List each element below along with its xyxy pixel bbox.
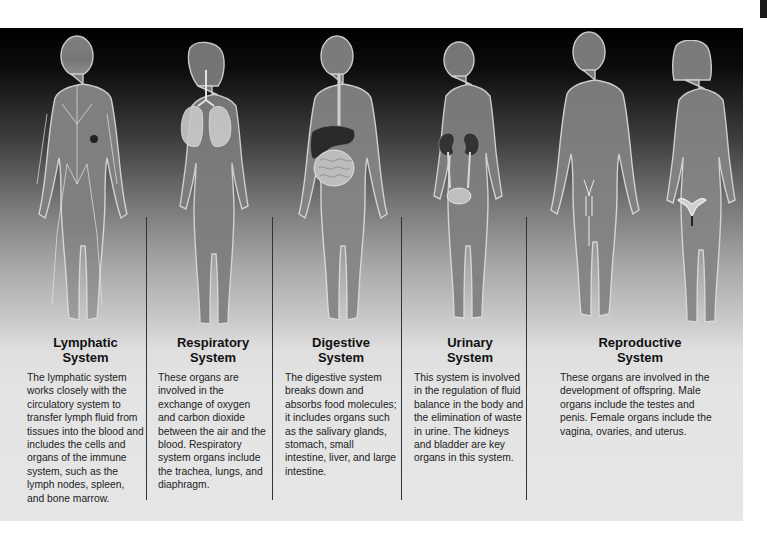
page-corner-mark xyxy=(760,0,767,18)
system-title: Reproductive System xyxy=(560,335,720,365)
column-divider xyxy=(526,217,527,500)
system-title: Respiratory System xyxy=(158,335,268,365)
system-description: This system is involved in the regulatio… xyxy=(414,371,526,465)
system-description: These organs are involved in the develop… xyxy=(560,371,720,438)
system-description: The digestive system breaks down and abs… xyxy=(285,371,397,478)
column-divider xyxy=(272,217,273,500)
digestive-figure xyxy=(282,34,392,334)
urinary-caption: Urinary System This system is involved i… xyxy=(414,335,526,465)
reproductive-male-figure xyxy=(534,30,644,330)
system-description: These organs are involved in the exchang… xyxy=(158,371,268,492)
human-body-icon xyxy=(22,34,132,334)
human-body-icon xyxy=(534,30,644,330)
column-divider xyxy=(401,217,402,500)
organ-systems-panel: Lymphatic System The lymphatic system wo… xyxy=(0,28,743,521)
system-description: The lymphatic system works closely with … xyxy=(27,371,144,505)
urinary-figure xyxy=(414,40,504,330)
human-body-icon xyxy=(282,34,392,334)
respiratory-figure xyxy=(160,40,250,330)
reproductive-caption: Reproductive System These organs are inv… xyxy=(560,335,720,438)
system-title: Urinary System xyxy=(414,335,526,365)
column-divider xyxy=(146,217,147,500)
human-body-icon xyxy=(414,40,504,330)
human-body-icon xyxy=(160,40,250,330)
lymphatic-caption: Lymphatic System The lymphatic system wo… xyxy=(27,335,144,505)
lymphatic-figure xyxy=(22,34,132,334)
system-title: Lymphatic System xyxy=(27,335,144,365)
system-title: Digestive System xyxy=(285,335,397,365)
digestive-caption: Digestive System The digestive system br… xyxy=(285,335,397,478)
respiratory-caption: Respiratory System These organs are invo… xyxy=(158,335,268,492)
human-body-icon xyxy=(644,40,740,330)
reproductive-female-figure xyxy=(644,40,740,330)
